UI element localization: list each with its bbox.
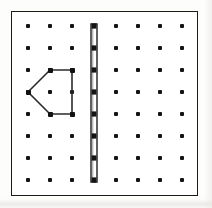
pentagon-vertex-peg xyxy=(26,90,31,95)
pentagon-vertex-peg xyxy=(48,112,53,117)
pentagon-rubber-band xyxy=(28,70,72,114)
vertical-band-peg xyxy=(92,155,97,160)
vertical-band-peg xyxy=(92,133,97,138)
pentagon-vertex-peg xyxy=(48,68,53,73)
pentagon-vertex-peg xyxy=(70,68,75,73)
geoboard-figure xyxy=(0,0,212,208)
vertical-band-peg xyxy=(92,67,97,72)
band-layer xyxy=(0,0,212,208)
vertical-band-peg xyxy=(92,177,97,182)
vertical-band-peg xyxy=(92,45,97,50)
vertical-band-peg xyxy=(92,89,97,94)
vertical-rubber-band xyxy=(91,23,97,182)
pentagon-vertex-peg xyxy=(70,112,75,117)
vertical-band-peg xyxy=(92,111,97,116)
vertical-band-peg xyxy=(92,23,97,28)
